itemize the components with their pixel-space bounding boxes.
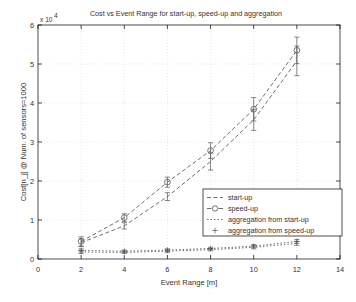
x-tick-label: 2 [79, 265, 83, 274]
y-tick-label: 1 [30, 216, 34, 225]
y-tick-label: 3 [30, 138, 34, 147]
legend-label: speed-up [228, 204, 258, 213]
y-axis-label: Cost[n_j] @ Num. of sensors=1000 [19, 83, 28, 202]
legend-label: aggregation from speed-up [228, 226, 314, 235]
y-tick-label: 5 [30, 60, 34, 69]
chart-svg: Cost vs Event Range for start-up, speed-… [0, 0, 356, 302]
legend[interactable]: start-upspeed-upaggregation from start-u… [203, 189, 342, 236]
y-tick-label: 2 [30, 177, 34, 186]
y-tick-label: 0 [30, 255, 34, 264]
figure-background [0, 0, 356, 302]
x-tick-label: 4 [122, 265, 126, 274]
x-tick-label: 0 [36, 265, 40, 274]
chart-title: Cost vs Event Range for start-up, speed-… [90, 9, 282, 18]
legend-label: aggregation from start-up [228, 215, 309, 224]
y-axis-exponent: x 10 [40, 16, 53, 23]
y-axis-exponent-power: 4 [54, 12, 58, 19]
figure-canvas: Cost vs Event Range for start-up, speed-… [0, 0, 356, 302]
x-tick-label: 14 [336, 265, 344, 274]
legend-label: start-up [228, 193, 252, 202]
x-tick-label: 6 [165, 265, 169, 274]
x-tick-label: 8 [209, 265, 213, 274]
x-axis-label: Event Range [m] [161, 278, 218, 287]
legend-item-aggregation-from-speed-up[interactable]: aggregation from speed-up [212, 226, 314, 235]
y-tick-label: 6 [30, 21, 34, 30]
x-tick-label: 12 [293, 265, 301, 274]
y-tick-label: 4 [30, 99, 34, 108]
x-tick-label: 10 [250, 265, 258, 274]
